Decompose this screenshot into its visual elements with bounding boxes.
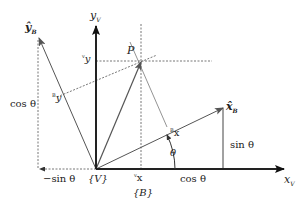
vy-label: vy [82, 54, 90, 64]
sin-theta-label: sin θ [230, 140, 254, 150]
y-v-axis-label: yV [90, 10, 101, 23]
x-b-axis [96, 108, 223, 169]
cos-theta-vertical-label: cos θ [10, 99, 36, 109]
frame-v-label: {V} [88, 174, 108, 184]
vx-label: vx [134, 173, 142, 183]
theta-label: θ [170, 148, 176, 158]
x-b-axis-label: x̂B [226, 101, 238, 114]
by-label: By [52, 93, 61, 103]
point-p-label: P [127, 45, 134, 56]
bx-label: Bx [170, 128, 179, 138]
bx-projection-line [130, 42, 167, 127]
neg-sin-theta-label: −sin θ [43, 174, 75, 184]
y-b-axis-label: ŷB [25, 22, 36, 35]
frame-b-label: {B} [133, 188, 153, 198]
cos-theta-horizontal-label: cos θ [180, 174, 206, 184]
x-v-axis-label: xV [284, 174, 295, 187]
